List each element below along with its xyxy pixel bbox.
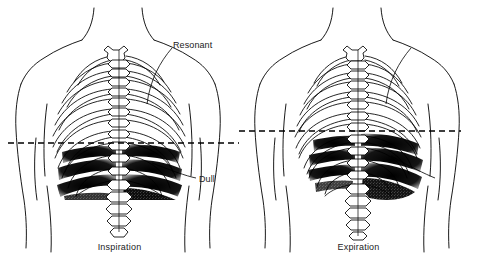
panel-inspiration: Resonant Dull Inspiration xyxy=(0,0,239,271)
caption-expiration: Expiration xyxy=(239,242,478,252)
leader-resonant-inspiration xyxy=(147,48,172,104)
expiration-illustration xyxy=(239,0,478,271)
thorax-percussion-figure: Resonant Dull Inspiration xyxy=(0,0,478,271)
label-resonant-inspiration: Resonant xyxy=(173,40,212,50)
leader-resonant-expiration xyxy=(386,48,411,104)
caption-inspiration: Inspiration xyxy=(0,242,239,252)
spine-inspiration xyxy=(104,46,132,237)
label-dull-inspiration: Dull xyxy=(199,174,215,184)
panel-expiration: Resonant Dull Expiration xyxy=(239,0,478,271)
